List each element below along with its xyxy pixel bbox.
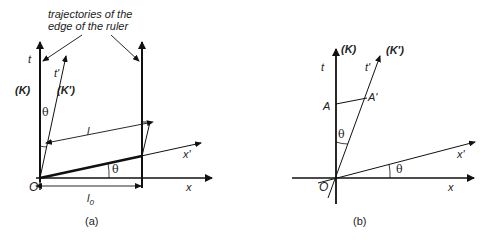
- theta-arc-bottom: [108, 163, 109, 178]
- caption-a: (a): [85, 215, 98, 227]
- x-label: x: [447, 181, 454, 193]
- annotation-arrow-right: [111, 35, 139, 61]
- origin-label: O: [319, 180, 328, 194]
- l-label: l: [87, 125, 90, 137]
- x-prime-label: x': [456, 148, 466, 160]
- theta-bottom-label: θ: [396, 163, 403, 176]
- t-prime-label: t': [54, 67, 60, 79]
- t-label: t: [321, 61, 325, 73]
- theta-arc-top: [336, 142, 348, 144]
- t-prime-label: t': [365, 61, 371, 73]
- k-prime-label: (K'): [57, 84, 75, 96]
- l0-label: l0: [87, 192, 94, 207]
- t-label: t: [28, 53, 32, 65]
- a-prime-label: A': [367, 91, 378, 103]
- k-label: (K): [15, 84, 31, 96]
- x-prime-label: x': [182, 148, 192, 160]
- origin-label: O: [29, 180, 38, 194]
- theta-arc-top: [40, 146, 47, 147]
- theta-top-label: θ: [42, 106, 49, 119]
- theta-top-label: θ: [338, 128, 345, 141]
- annotation-line1: trajectories of the: [48, 8, 132, 20]
- l-length-arrow: [46, 123, 148, 143]
- panel-b: (K) (K') t t' A A' θ θ x' x O (b): [292, 43, 475, 227]
- x-label: x: [185, 181, 192, 193]
- panel-a: trajectories of the edge of the ruler t …: [15, 8, 212, 227]
- annotation-arrow-left: [43, 35, 82, 61]
- caption-b: (b): [353, 215, 366, 227]
- k-label: (K): [341, 43, 357, 55]
- theta-bottom-label: θ: [112, 163, 119, 176]
- k-prime-label: (K'): [386, 44, 404, 56]
- theta-arc-bottom: [389, 164, 390, 178]
- spacetime-diagram: trajectories of the edge of the ruler t …: [0, 0, 489, 246]
- ruler: [40, 156, 142, 178]
- annotation-line2: edge of the ruler: [48, 20, 129, 32]
- a-label: A: [322, 100, 330, 112]
- ruler-end-segment: [142, 122, 150, 156]
